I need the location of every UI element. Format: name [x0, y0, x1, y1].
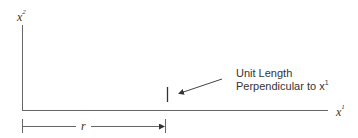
- y-axis-label-sup: 2: [22, 8, 26, 16]
- annotation-line2: Perpendicular to x1: [236, 81, 329, 92]
- annotation-line2-text: Perpendicular to x: [236, 80, 325, 92]
- y-axis-label: x2: [17, 11, 26, 23]
- x-axis-label: x1: [336, 106, 345, 118]
- diagram-canvas: [0, 0, 358, 138]
- annotation-line2-sup: 1: [325, 79, 329, 86]
- x-axis-label-sup: 1: [341, 103, 345, 111]
- annotation-line1: Unit Length: [236, 68, 292, 79]
- dimension-label: r: [81, 120, 86, 132]
- annotation-arrow: [179, 79, 222, 94]
